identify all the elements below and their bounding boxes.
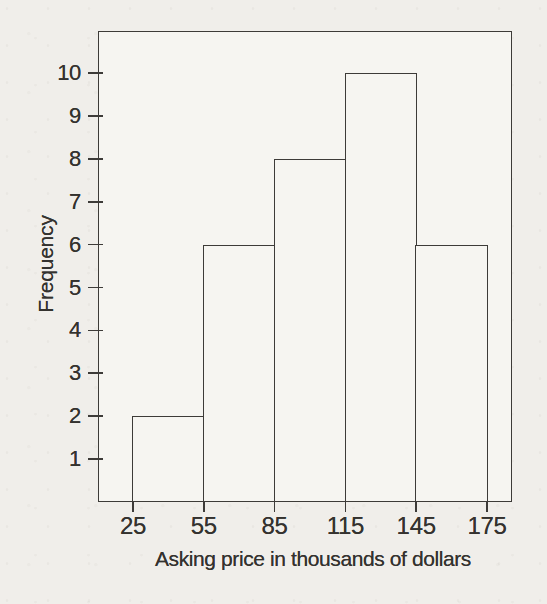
y-tick-label-1: 1 bbox=[31, 446, 81, 472]
y-tick-7 bbox=[88, 201, 103, 203]
y-tick-2 bbox=[88, 415, 103, 417]
y-tick-label-3: 3 bbox=[31, 360, 81, 386]
x-tick-label-55: 55 bbox=[169, 513, 239, 539]
x-tick-label-25: 25 bbox=[98, 513, 168, 539]
x-tick-label-115: 115 bbox=[310, 513, 380, 539]
y-tick-label-9: 9 bbox=[31, 103, 81, 129]
x-tick-85 bbox=[274, 501, 276, 512]
scanned-page: 12345678910 255585115145175 Frequency As… bbox=[0, 0, 547, 604]
x-tick-label-145: 145 bbox=[381, 513, 451, 539]
x-axis-title: Asking price in thousands of dollars bbox=[113, 546, 513, 572]
x-tick-55 bbox=[203, 501, 205, 512]
y-axis-title: Frequency bbox=[33, 164, 59, 364]
x-tick-25 bbox=[132, 501, 134, 512]
y-tick-10 bbox=[88, 72, 103, 74]
y-tick-4 bbox=[88, 330, 103, 332]
y-tick-5 bbox=[88, 287, 103, 289]
y-tick-1 bbox=[88, 458, 103, 460]
histogram-bar-55-85 bbox=[203, 245, 276, 502]
x-tick-label-85: 85 bbox=[240, 513, 310, 539]
y-tick-6 bbox=[88, 244, 103, 246]
y-tick-label-10: 10 bbox=[31, 60, 81, 86]
histogram-bar-25-55 bbox=[132, 416, 205, 502]
histogram-bar-85-115 bbox=[274, 159, 347, 502]
x-tick-145 bbox=[415, 501, 417, 512]
x-tick-175 bbox=[486, 501, 488, 512]
y-tick-3 bbox=[88, 372, 103, 374]
y-tick-9 bbox=[88, 115, 103, 117]
x-tick-label-175: 175 bbox=[452, 513, 522, 539]
histogram-bar-115-145 bbox=[345, 73, 418, 502]
x-tick-115 bbox=[345, 501, 347, 512]
histogram-bar-145-175 bbox=[415, 245, 488, 502]
y-tick-8 bbox=[88, 158, 103, 160]
y-tick-label-2: 2 bbox=[31, 403, 81, 429]
